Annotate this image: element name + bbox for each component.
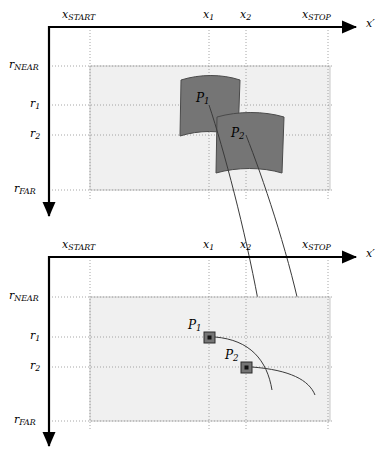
upper-x-axis-title: x′ xyxy=(366,18,375,29)
upper-tick-label-r-far: rFAR xyxy=(14,183,36,196)
figure-canvas xyxy=(0,0,389,470)
marker-p2 xyxy=(241,362,252,373)
upper-tick-label-x-1: x1 xyxy=(203,9,214,22)
lower-tick-label-r-far: rFAR xyxy=(14,414,36,427)
lower-panel xyxy=(48,256,356,446)
lower-tick-label-x-1: x1 xyxy=(203,239,214,252)
upper-tick-label-r-1: r1 xyxy=(30,98,40,111)
patch-p2-label: P2 xyxy=(231,127,245,141)
marker-p2-label: P2 xyxy=(225,349,239,363)
patch-p1-label: P1 xyxy=(196,92,210,106)
radar-projection-figure: xSTART x1 x2 xSTOP x′ rNEAR r1 r2 rFAR P… xyxy=(0,0,389,470)
lower-tick-label-r-2: r2 xyxy=(30,360,40,373)
upper-tick-label-r-near: rNEAR xyxy=(9,59,39,72)
upper-tick-label-x-stop: xSTOP xyxy=(302,9,331,22)
upper-tick-label-r-2: r2 xyxy=(30,128,40,141)
lower-tick-label-x-stop: xSTOP xyxy=(302,239,331,252)
marker-p1-dot xyxy=(208,336,212,340)
lower-tick-label-x-2: x2 xyxy=(240,239,251,252)
lower-tick-label-r-near: rNEAR xyxy=(9,290,39,303)
lower-region-rect xyxy=(90,297,330,421)
marker-p2-dot xyxy=(245,366,249,370)
lower-tick-label-x-start: xSTART xyxy=(62,239,95,252)
upper-tick-label-x-start: xSTART xyxy=(62,9,95,22)
marker-p1 xyxy=(204,332,215,343)
lower-tick-label-r-1: r1 xyxy=(30,330,40,343)
upper-tick-label-x-2: x2 xyxy=(240,9,251,22)
marker-p1-label: P1 xyxy=(188,319,202,333)
lower-x-axis-title: x′ xyxy=(366,248,375,259)
